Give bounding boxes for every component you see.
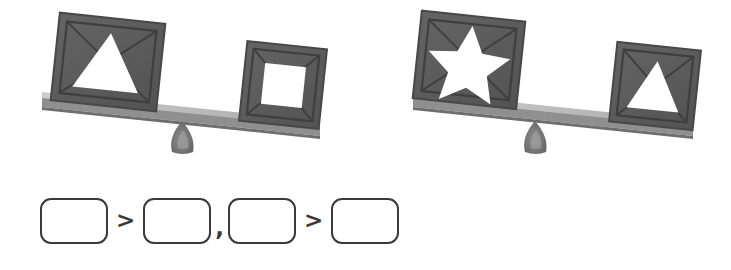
fulcrum-left bbox=[171, 121, 193, 154]
greater-than-operator-2: > bbox=[296, 209, 331, 232]
answer-box-1[interactable] bbox=[40, 198, 108, 244]
answer-box-3[interactable] bbox=[228, 198, 296, 244]
balance-scale-right bbox=[375, 0, 731, 175]
balance-scale-left bbox=[0, 0, 375, 175]
comma-separator: , bbox=[211, 217, 228, 240]
crate-triangle-right bbox=[609, 42, 701, 130]
answer-box-4[interactable] bbox=[331, 198, 399, 244]
crate-star-left bbox=[413, 11, 526, 109]
worksheet-canvas: > , > bbox=[0, 0, 731, 270]
shape-cutout-square bbox=[261, 63, 306, 108]
comparison-answer-row: > , > bbox=[40, 194, 399, 248]
crate-triangle-left bbox=[51, 13, 166, 112]
crate-square-right bbox=[239, 41, 327, 129]
fulcrum-right bbox=[524, 121, 546, 154]
greater-than-operator-1: > bbox=[108, 209, 143, 232]
answer-box-2[interactable] bbox=[143, 198, 211, 244]
